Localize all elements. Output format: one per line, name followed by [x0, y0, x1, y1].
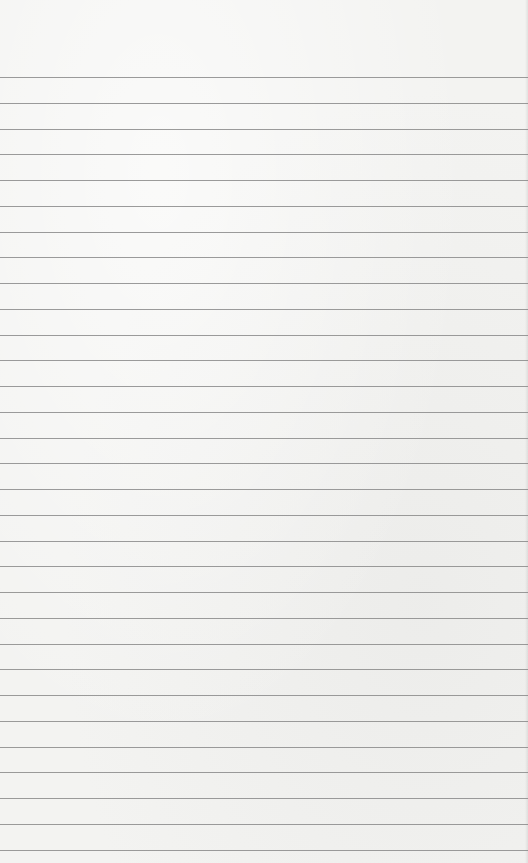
ruled-line: [0, 309, 528, 310]
ruled-line: [0, 335, 528, 336]
ruled-line: [0, 103, 528, 104]
ruled-line: [0, 77, 528, 78]
ruled-line: [0, 772, 528, 773]
ruled-line: [0, 438, 528, 439]
ruled-line: [0, 489, 528, 490]
lined-paper: [0, 0, 528, 863]
ruled-line: [0, 721, 528, 722]
ruled-line: [0, 232, 528, 233]
ruled-line: [0, 669, 528, 670]
ruled-line: [0, 360, 528, 361]
ruled-line: [0, 180, 528, 181]
ruled-line: [0, 463, 528, 464]
ruled-line: [0, 618, 528, 619]
ruled-line: [0, 541, 528, 542]
ruled-line: [0, 824, 528, 825]
ruled-line: [0, 798, 528, 799]
ruled-line: [0, 644, 528, 645]
ruled-line: [0, 257, 528, 258]
ruled-line: [0, 206, 528, 207]
ruled-line: [0, 283, 528, 284]
ruled-line: [0, 412, 528, 413]
ruled-line: [0, 592, 528, 593]
ruled-line: [0, 154, 528, 155]
ruled-line: [0, 515, 528, 516]
ruled-line: [0, 386, 528, 387]
ruled-line: [0, 129, 528, 130]
ruled-line: [0, 850, 528, 851]
ruled-line: [0, 695, 528, 696]
ruled-line: [0, 566, 528, 567]
ruled-line: [0, 747, 528, 748]
